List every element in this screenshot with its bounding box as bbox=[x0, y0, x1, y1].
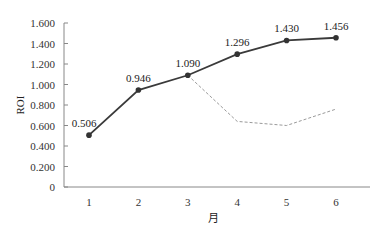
y-axis-ticks: 00.2000.4000.6000.8001.0001.2001.4001.60… bbox=[30, 17, 68, 193]
data-point-marker bbox=[86, 132, 92, 138]
data-value-label: 0.506 bbox=[72, 117, 97, 129]
x-tick-label: 5 bbox=[284, 196, 290, 208]
y-tick-label: 1.600 bbox=[30, 17, 55, 29]
roi-line-chart: 00.2000.4000.6000.8001.0001.2001.4001.60… bbox=[0, 0, 374, 240]
x-tick-label: 2 bbox=[136, 196, 142, 208]
y-tick-label: 0.800 bbox=[30, 99, 55, 111]
data-value-label: 0.946 bbox=[126, 72, 151, 84]
x-tick-label: 4 bbox=[234, 196, 240, 208]
y-tick-label: 0.400 bbox=[30, 140, 55, 152]
y-tick-label: 0 bbox=[50, 181, 56, 193]
x-tick-label: 1 bbox=[86, 196, 92, 208]
x-tick-label: 3 bbox=[185, 196, 191, 208]
data-point-marker bbox=[333, 35, 339, 41]
data-point-marker bbox=[284, 38, 290, 44]
y-tick-label: 1.000 bbox=[30, 79, 55, 91]
data-value-label: 1.456 bbox=[324, 20, 349, 32]
dashed-projection-line bbox=[188, 75, 336, 125]
y-tick-label: 1.400 bbox=[30, 38, 55, 50]
y-axis-title: ROI bbox=[14, 95, 26, 114]
y-tick-label: 0.200 bbox=[30, 161, 55, 173]
x-axis-title: 月 bbox=[208, 212, 219, 224]
roi-series-markers bbox=[86, 35, 339, 138]
x-axis-ticks: 123456 bbox=[86, 196, 339, 208]
roi-series-line bbox=[89, 38, 336, 135]
y-tick-label: 1.200 bbox=[30, 58, 55, 70]
axes bbox=[64, 23, 370, 187]
data-value-label: 1.296 bbox=[225, 36, 250, 48]
x-tick-label: 6 bbox=[333, 196, 339, 208]
data-value-label: 1.430 bbox=[274, 22, 299, 34]
data-point-marker bbox=[185, 72, 191, 78]
data-value-label: 1.090 bbox=[175, 57, 200, 69]
data-point-marker bbox=[136, 87, 142, 93]
data-point-marker bbox=[234, 51, 240, 57]
y-tick-label: 0.600 bbox=[30, 120, 55, 132]
